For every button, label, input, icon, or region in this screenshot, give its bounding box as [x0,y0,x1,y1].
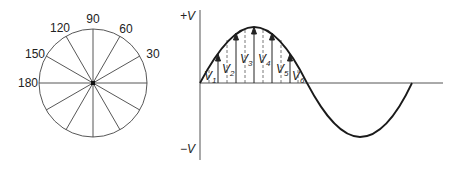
sine-phasor-diagram: 90 60 30 120 150 180 +V −V V1 V2 V3 [0,0,462,172]
sine-curve [200,27,412,137]
angle-label-180: 180 [18,76,38,90]
label-v3: V3 [240,52,253,68]
label-v2: V2 [222,62,235,78]
label-v5: V5 [276,62,289,78]
y-axis-plus-v-label: +V [180,9,196,23]
circle-center-dot [91,81,95,85]
angle-label-30: 30 [146,47,160,61]
label-v6: V6 [292,69,305,85]
angle-label-150: 150 [25,47,45,61]
y-axis-minus-v-label: −V [180,142,196,156]
label-v4: V4 [258,52,271,68]
label-v1: V1 [204,69,216,85]
angle-label-60: 60 [119,22,133,36]
angle-label-90: 90 [86,12,100,26]
angle-label-120: 120 [50,21,70,35]
sine-axes [200,10,443,160]
